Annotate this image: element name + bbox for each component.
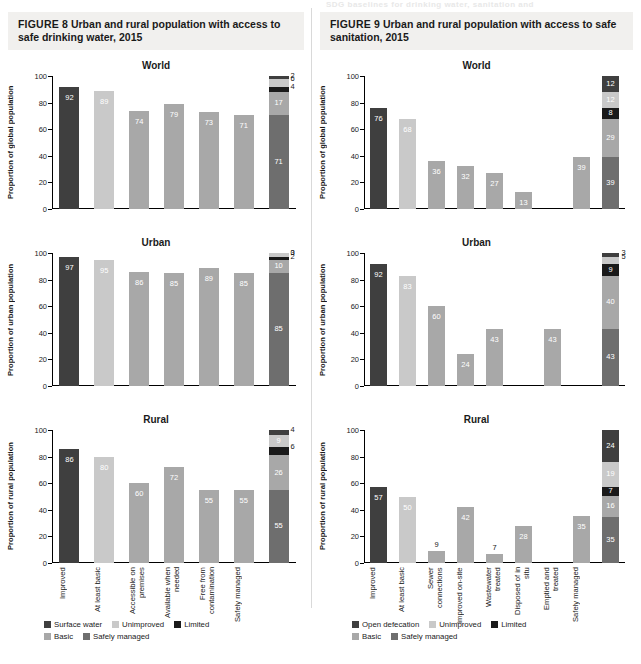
bar-value: 89: [199, 275, 219, 283]
bar-body: 95: [94, 260, 114, 386]
figure-page: SDG baselines for drinking water, sanita…: [0, 0, 641, 664]
figure-9-number: FIGURE 9: [330, 18, 380, 30]
y-tick: [360, 333, 364, 334]
bar-body: 71: [234, 115, 254, 209]
segment-value: 6: [291, 443, 295, 451]
bar-body: 57: [370, 487, 388, 563]
legend-item: Surface water: [44, 620, 102, 629]
bar-value: 83: [399, 283, 417, 291]
y-tick: [360, 483, 364, 484]
bar-body: 68: [399, 119, 417, 209]
bar-value: 24: [457, 361, 475, 369]
y-tick-label: 80: [351, 98, 359, 107]
bar-value: 79: [164, 111, 184, 119]
y-tick-label: 100: [346, 249, 359, 258]
legend-item: Unimproved: [429, 620, 481, 629]
bar: 76: [370, 108, 388, 209]
y-tick: [360, 209, 364, 210]
bar-body: 36: [428, 161, 446, 209]
plot-area: 020406080100575094272835241971635: [364, 430, 625, 563]
y-tick-label: 100: [34, 72, 47, 81]
bar-value: 13: [515, 199, 533, 207]
legend-swatch: [352, 633, 359, 640]
bar-value: 76: [370, 115, 388, 123]
bar-body: 27: [486, 173, 504, 209]
bar-value: 32: [457, 173, 475, 181]
bar-value: 80: [94, 464, 114, 472]
chart-title: Rural: [320, 414, 633, 425]
y-tick: [48, 510, 52, 511]
y-tick-label: 100: [346, 72, 359, 81]
segment-value: 17: [269, 99, 289, 107]
bar-body: 43: [544, 329, 562, 386]
segment-value: 10: [269, 262, 289, 270]
bar-body: 80: [94, 457, 114, 563]
bar-value: 7: [486, 544, 504, 552]
bar-value: 57: [370, 494, 388, 502]
y-tick-label: 40: [351, 505, 359, 514]
y-tick-label: 80: [351, 275, 359, 284]
page-watermark: SDG baselines for drinking water, sanita…: [320, 0, 540, 10]
y-tick-label: 20: [39, 532, 47, 541]
y-tick-label: 60: [39, 302, 47, 311]
segment-value: 2: [291, 253, 295, 261]
stack-segment: 12: [602, 92, 620, 108]
stacked-bar: 3594043: [602, 253, 620, 386]
y-tick: [360, 510, 364, 511]
y-axis-label: Proportion of urban population: [6, 253, 15, 386]
y-tick: [360, 253, 364, 254]
plot-area: 0204060801009289747973712641771: [52, 76, 296, 209]
legend-label: Basic: [362, 632, 381, 641]
bar: 72: [164, 467, 184, 563]
y-tick: [360, 359, 364, 360]
y-tick: [360, 563, 364, 564]
y-tick: [360, 430, 364, 431]
y-tick: [360, 306, 364, 307]
segment-value: 55: [269, 522, 289, 530]
bar-value: 85: [164, 280, 184, 288]
y-tick-label: 20: [39, 355, 47, 364]
legend-swatch: [391, 633, 398, 640]
bar: 9: [428, 551, 446, 563]
bar-body: 92: [59, 87, 79, 209]
bar: 57: [370, 487, 388, 563]
segment-value: 19: [602, 470, 620, 478]
stack-segment: 10: [269, 260, 289, 273]
bar-value: 28: [515, 533, 533, 541]
bar-value: 97: [59, 264, 79, 272]
y-tick: [360, 457, 364, 458]
bar-value: 86: [129, 279, 149, 287]
bar-body: 79: [164, 104, 184, 209]
bar-body: 86: [129, 272, 149, 386]
bar-value: 86: [59, 456, 79, 464]
y-tick: [48, 359, 52, 360]
bar-body: 28: [515, 526, 533, 563]
y-tick: [48, 182, 52, 183]
y-tick: [48, 209, 52, 210]
y-tick-label: 0: [43, 559, 47, 568]
bar: 95: [94, 260, 114, 386]
bar: 89: [94, 91, 114, 209]
chart-title: Urban: [320, 237, 633, 248]
stack-segment: 40: [602, 276, 620, 329]
legend-label: Safely managed: [93, 632, 149, 641]
y-tick-label: 100: [34, 249, 47, 258]
figure-8-legend: Surface waterUnimprovedLimitedBasicSafel…: [44, 620, 219, 644]
y-tick: [48, 280, 52, 281]
bar-value: 50: [399, 504, 417, 512]
y-tick-label: 40: [39, 151, 47, 160]
y-tick: [48, 103, 52, 104]
bar-body: 55: [234, 490, 254, 563]
bar-value: 43: [486, 336, 504, 344]
bar: 50: [399, 497, 417, 564]
y-tick-label: 20: [351, 532, 359, 541]
legend-label: Limited: [501, 620, 526, 629]
legend-swatch: [429, 621, 436, 628]
y-tick-label: 80: [39, 275, 47, 284]
bar-body: 72: [164, 467, 184, 563]
legend-item: Safely managed: [83, 632, 149, 641]
bar-value: 43: [544, 336, 562, 344]
bar-value: 73: [199, 119, 219, 127]
legend-swatch: [112, 621, 119, 628]
bar-value: 71: [234, 122, 254, 130]
